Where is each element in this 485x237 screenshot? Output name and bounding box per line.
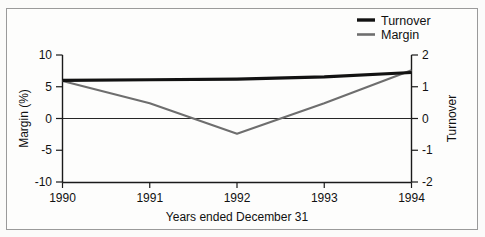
right-tick-label-3: -1 — [422, 143, 433, 157]
x-tick-label-1992: 1992 — [224, 191, 251, 205]
series-line-turnover — [63, 72, 412, 80]
chart-legend: Turnover Margin — [357, 14, 431, 43]
right-tick-label-4: -2 — [422, 175, 433, 189]
left-tick-label-2: 0 — [45, 112, 52, 126]
right-tick-label-1: 1 — [422, 80, 429, 94]
left-axis-ticks — [56, 55, 63, 182]
x-tick-label-1994: 1994 — [398, 191, 425, 205]
legend-label-turnover: Turnover — [381, 14, 431, 28]
left-tick-label-4: -10 — [35, 175, 53, 189]
left-axis-title: Margin (%) — [17, 89, 31, 148]
x-tick-label-1990: 1990 — [49, 191, 76, 205]
x-tick-label-1991: 1991 — [136, 191, 163, 205]
x-tick-label-1993: 1993 — [311, 191, 338, 205]
legend-label-margin: Margin — [381, 28, 419, 42]
left-tick-label-3: -5 — [41, 143, 52, 157]
right-axis-title: Turnover — [445, 95, 459, 143]
x-axis-title: Years ended December 31 — [166, 210, 309, 224]
x-axis-ticks — [63, 183, 412, 189]
left-tick-label-0: 10 — [39, 48, 53, 62]
dual-axis-line-chart: 10 5 0 -5 -10 2 1 0 -1 -2 1990 1991 1992… — [0, 0, 485, 237]
right-tick-label-2: 0 — [422, 112, 429, 126]
chart-figure: 10 5 0 -5 -10 2 1 0 -1 -2 1990 1991 1992… — [0, 0, 485, 237]
right-tick-label-0: 2 — [422, 48, 429, 62]
right-axis-ticks — [412, 55, 419, 182]
left-tick-label-1: 5 — [45, 80, 52, 94]
